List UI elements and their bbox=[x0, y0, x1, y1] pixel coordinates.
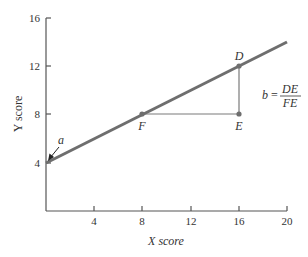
formula-lhs: b = bbox=[262, 88, 278, 102]
regression-diagram: 16 12 8 4 4 8 12 16 20 X score Y score D… bbox=[0, 0, 308, 257]
regression-line bbox=[46, 42, 287, 163]
intercept-label: a bbox=[58, 133, 64, 147]
y-tick-labels: 16 12 8 4 bbox=[29, 12, 41, 169]
x-tick-16: 16 bbox=[234, 215, 246, 227]
x-tick-4: 4 bbox=[91, 215, 97, 227]
formula-numerator: DE bbox=[281, 82, 299, 96]
x-tick-20: 20 bbox=[282, 215, 294, 227]
x-axis-label: X score bbox=[147, 234, 185, 248]
y-axis-label: Y score bbox=[11, 96, 25, 133]
label-d: D bbox=[234, 49, 244, 63]
y-tick-12: 12 bbox=[29, 60, 40, 72]
point-f bbox=[139, 111, 144, 116]
point-d bbox=[236, 63, 241, 68]
x-tick-8: 8 bbox=[139, 215, 145, 227]
x-tick-12: 12 bbox=[186, 215, 197, 227]
y-tick-8: 8 bbox=[35, 108, 41, 120]
x-tick-labels: 4 8 12 16 20 bbox=[91, 215, 293, 227]
slope-formula: b = DE FE bbox=[262, 82, 301, 110]
y-tick-4: 4 bbox=[35, 157, 41, 169]
formula-denominator: FE bbox=[282, 96, 298, 110]
label-e: E bbox=[234, 119, 243, 133]
label-f: F bbox=[137, 119, 146, 133]
y-tick-16: 16 bbox=[29, 12, 41, 24]
point-e bbox=[236, 111, 241, 116]
